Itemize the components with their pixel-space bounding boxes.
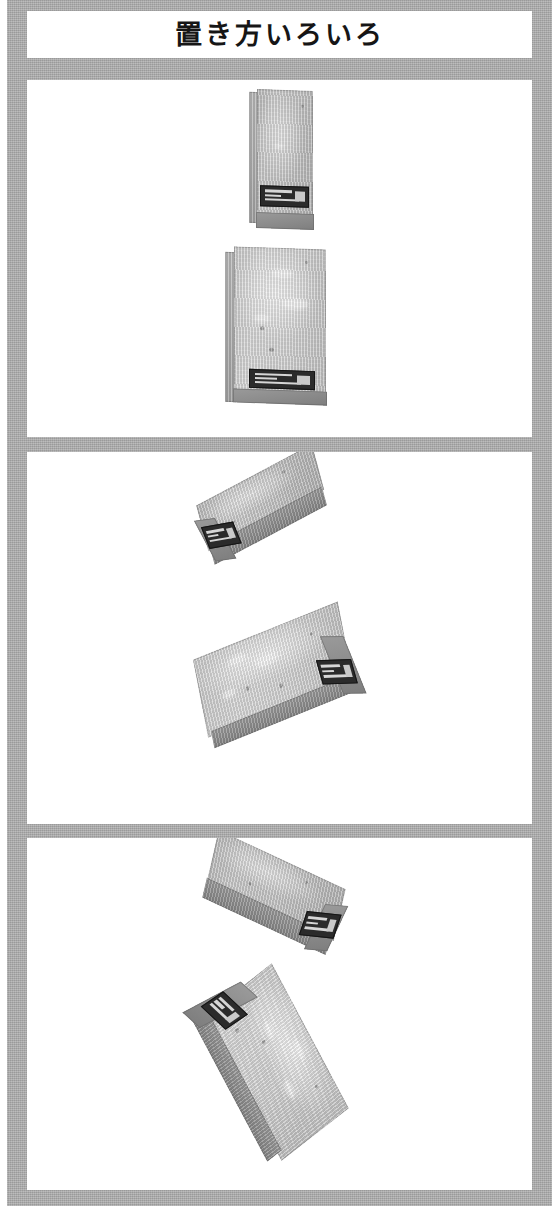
page-title-plate: 置き方いろいろ — [27, 11, 532, 58]
page-title: 置き方いろいろ — [175, 21, 385, 48]
block-wide-tilted — [180, 603, 374, 767]
block-narrow-tilted — [188, 452, 341, 573]
block-label-sticker — [316, 659, 358, 684]
photo-instruction-page: 置き方いろいろ — [0, 0, 559, 1211]
block-label-sticker — [299, 911, 342, 939]
block-end-face — [233, 388, 327, 405]
block-end-face — [256, 212, 314, 230]
panel-tilted-left — [27, 452, 532, 824]
block-narrow-upright — [249, 90, 315, 225]
panel-tilted-right — [27, 838, 532, 1190]
block-wide-upright — [225, 248, 335, 403]
block-wide-tilted-right — [166, 965, 354, 1176]
panel-upright — [27, 80, 532, 437]
block-label-sticker — [249, 369, 315, 390]
block-label-sticker — [260, 185, 309, 208]
block-narrow-tilted-right — [184, 838, 354, 971]
